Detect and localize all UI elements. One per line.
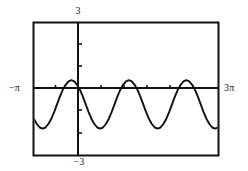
x-axis-min-label: −π bbox=[9, 83, 20, 93]
y-axis-min-label: −3 bbox=[73, 157, 84, 167]
y-axis-max-label: 3 bbox=[75, 6, 80, 16]
graph-figure: 3 −3 −π 3π bbox=[0, 0, 248, 171]
x-axis-max-label: 3π bbox=[224, 83, 234, 93]
plot-canvas bbox=[0, 0, 248, 171]
